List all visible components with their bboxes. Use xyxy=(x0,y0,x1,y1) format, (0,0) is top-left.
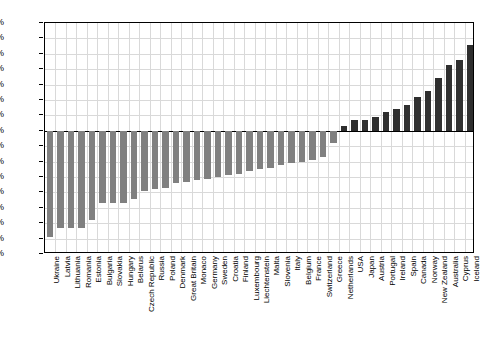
bar-denmark xyxy=(173,131,180,183)
gridline-vertical xyxy=(286,23,287,252)
bar-russia xyxy=(152,131,159,190)
bar-romania xyxy=(78,131,85,228)
bar-czech-republic xyxy=(141,131,148,191)
bar-hungary xyxy=(120,131,127,203)
y-axis-tick-mark xyxy=(39,238,43,239)
y-axis-tick-label: 0% xyxy=(0,126,4,135)
x-axis-tick-label: Belgium xyxy=(304,256,314,285)
gridline-vertical xyxy=(339,23,340,252)
y-axis-tick-label: -50% xyxy=(0,203,4,212)
bar-ireland xyxy=(393,109,400,131)
x-axis-tick-label: Czech Republic xyxy=(147,256,157,312)
gridline-vertical xyxy=(139,23,140,252)
y-axis-tick-label: 70% xyxy=(0,18,4,27)
x-axis-tick-label: Slovenia xyxy=(283,256,293,287)
gridline-vertical xyxy=(433,23,434,252)
x-axis-tick-label: Croatia xyxy=(231,256,241,282)
gridline-vertical xyxy=(97,23,98,252)
gridline-horizontal xyxy=(45,38,473,39)
x-axis-tick-label: Sweden xyxy=(220,256,230,285)
bar-great-britain xyxy=(183,131,190,182)
gridline-vertical xyxy=(55,23,56,252)
y-axis-tick-mark xyxy=(39,176,43,177)
bar-estonia xyxy=(89,131,96,220)
bar-luxembourg xyxy=(246,131,253,171)
gridline-vertical xyxy=(160,23,161,252)
x-axis-tick-label: Finland xyxy=(241,256,251,282)
y-axis-tick-label: -60% xyxy=(0,218,4,227)
gridline-vertical xyxy=(423,23,424,252)
x-axis-tick-label: Switzerland xyxy=(325,256,335,297)
x-axis-tick-label: Belarus xyxy=(136,256,146,283)
gridline-vertical xyxy=(202,23,203,252)
x-axis-tick-label: Great Britain xyxy=(189,256,199,301)
gridline-vertical xyxy=(391,23,392,252)
y-axis-tick-label: -40% xyxy=(0,187,4,196)
x-axis-tick-label: USA xyxy=(356,256,366,272)
y-axis-tick-label: 30% xyxy=(0,80,4,89)
x-axis-tick-label: Denmark xyxy=(178,256,188,288)
x-axis-tick-label: Malta xyxy=(272,256,282,276)
bar-switzerland xyxy=(320,131,327,157)
bar-italy xyxy=(288,131,295,163)
x-axis-tick-label: Japan xyxy=(367,256,377,278)
x-axis-tick-label: Germany xyxy=(210,256,220,289)
x-axis-tick-label: Poland xyxy=(168,256,178,281)
gridline-horizontal xyxy=(45,100,473,101)
bar-netherlands xyxy=(341,126,348,131)
plot-area xyxy=(44,22,474,253)
x-axis-tick-label: Portugal xyxy=(388,256,398,286)
y-axis-tick-mark xyxy=(39,222,43,223)
x-axis-tick-label: Iceland xyxy=(472,256,482,282)
bar-ukraine xyxy=(47,131,54,237)
y-axis-tick-mark xyxy=(39,114,43,115)
x-axis-tick-label: Estonia xyxy=(94,256,104,283)
y-axis-tick-mark xyxy=(39,22,43,23)
gridline-horizontal xyxy=(45,54,473,55)
y-axis-tick-label: -70% xyxy=(0,234,4,243)
x-axis-tick-label: Slovakia xyxy=(115,256,125,286)
y-axis-tick-label: 20% xyxy=(0,95,4,104)
y-axis-tick-mark xyxy=(39,84,43,85)
x-axis-tick-label: France xyxy=(314,256,324,281)
y-axis-tick-label: -10% xyxy=(0,141,4,150)
x-axis-tick-label: Austria xyxy=(377,256,387,281)
y-axis-tick-mark xyxy=(39,161,43,162)
bar-spain xyxy=(404,105,411,131)
bar-greece xyxy=(330,131,337,143)
y-axis-tick-mark xyxy=(39,53,43,54)
bar-australia xyxy=(446,65,453,131)
x-axis-tick-label: Lithuania xyxy=(73,256,83,288)
bar-usa xyxy=(351,120,358,131)
gridline-vertical xyxy=(328,23,329,252)
y-axis-tick-label: 50% xyxy=(0,49,4,58)
bar-new-zealand xyxy=(435,78,442,130)
bar-poland xyxy=(162,131,169,188)
x-axis-tick-label: Netherlands xyxy=(346,256,356,299)
bar-portugal xyxy=(383,112,390,130)
gridline-vertical xyxy=(381,23,382,252)
gridline-vertical xyxy=(360,23,361,252)
y-axis-tick-mark xyxy=(39,207,43,208)
x-axis-tick-label: Australia xyxy=(451,256,461,287)
bar-slovakia xyxy=(110,131,117,203)
gridline-vertical xyxy=(244,23,245,252)
bar-norway xyxy=(425,91,432,131)
bar-sweden xyxy=(215,131,222,177)
gridline-vertical xyxy=(402,23,403,252)
bar-latvia xyxy=(57,131,64,228)
x-axis-tick-label: Norway xyxy=(430,256,440,283)
gridline-horizontal xyxy=(45,69,473,70)
bar-cyprus xyxy=(456,60,463,131)
bar-austria xyxy=(372,117,379,131)
bar-lithuania xyxy=(68,131,75,228)
x-axis-tick-label: Bulgaria xyxy=(105,256,115,285)
x-axis-tick-label: Greece xyxy=(335,256,345,282)
x-axis-tick-label: Ireland xyxy=(398,256,408,280)
gridline-vertical xyxy=(265,23,266,252)
y-axis-tick-label: -30% xyxy=(0,172,4,181)
y-axis-tick-label: 40% xyxy=(0,64,4,73)
chart-root: UkraineLatviaLithuaniaRomaniaEstoniaBulg… xyxy=(0,0,483,341)
y-axis-tick-label: -80% xyxy=(0,249,4,258)
x-axis-tick-label: Latvia xyxy=(63,256,73,277)
